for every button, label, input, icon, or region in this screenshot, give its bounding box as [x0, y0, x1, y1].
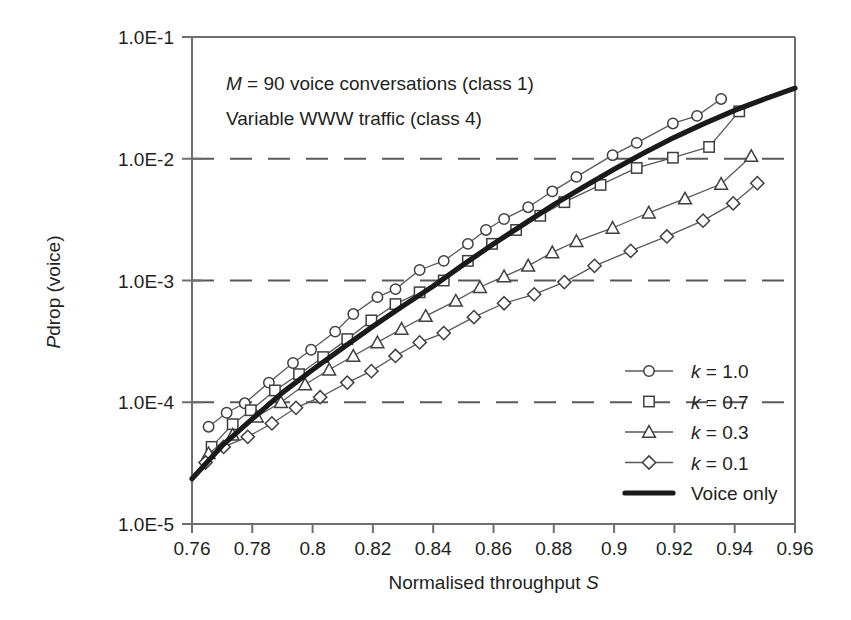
x-tick-label-0.82: 0.82 — [354, 538, 391, 559]
data-point-circle-5 — [306, 345, 316, 355]
data-point-circle-4 — [288, 358, 298, 368]
x-tick-label-0.94: 0.94 — [716, 538, 753, 559]
data-point-circle-20 — [668, 118, 678, 128]
legend-label-value: = 0.7 — [701, 392, 749, 413]
legend-label: k = 0.7 — [691, 392, 749, 413]
x-axis-title: Normalised throughput S — [388, 572, 599, 593]
y-tick-label-1.0E-2: 1.0E-2 — [118, 149, 174, 170]
y-tick-label-1.0E-4: 1.0E-4 — [118, 392, 174, 413]
legend-label: k = 0.1 — [691, 453, 749, 474]
annotation-line-2: Variable WWW traffic (class 4) — [226, 108, 482, 129]
legend-label: Voice only — [691, 483, 778, 504]
data-point-circle-15 — [523, 202, 533, 212]
annotation-symbol: M — [226, 73, 242, 94]
legend-label: k = 1.0 — [691, 361, 749, 382]
x-tick-label-0.9: 0.9 — [601, 538, 627, 559]
data-point-circle-22 — [716, 94, 726, 104]
legend-label-value: = 0.1 — [701, 453, 749, 474]
x-tick-label-0.78: 0.78 — [234, 538, 271, 559]
x-tick-label-0.96: 0.96 — [777, 538, 814, 559]
data-point-circle-6 — [330, 326, 340, 336]
data-point-circle-12 — [463, 239, 473, 249]
data-point-square-18 — [668, 153, 678, 163]
data-point-circle-1 — [221, 408, 231, 418]
x-tick-label-0.88: 0.88 — [535, 538, 572, 559]
pdrop-vs-throughput-chart: 0.760.780.80.820.840.860.880.90.920.940.… — [0, 0, 851, 620]
x-tick-label-0.92: 0.92 — [656, 538, 693, 559]
legend-label-value: = 1.0 — [701, 361, 749, 382]
y-tick-label-1.0E-3: 1.0E-3 — [118, 271, 174, 292]
legend-marker-square-icon — [644, 396, 654, 406]
data-point-square-17 — [632, 163, 642, 173]
data-point-circle-10 — [414, 265, 424, 275]
x-tick-label-0.86: 0.86 — [475, 538, 512, 559]
y-axis-title-text: drop (voice) — [43, 235, 64, 335]
x-tick-label-0.76: 0.76 — [174, 538, 211, 559]
data-point-circle-18 — [607, 150, 617, 160]
legend-label: k = 0.3 — [691, 422, 749, 443]
data-point-circle-9 — [390, 284, 400, 294]
y-axis-title-symbol: P — [43, 336, 64, 349]
data-point-circle-7 — [348, 309, 358, 319]
y-tick-label-1.0E-1: 1.0E-1 — [118, 27, 174, 48]
legend-marker-circle-icon — [644, 366, 654, 376]
data-point-circle-19 — [632, 138, 642, 148]
y-tick-label-1.0E-5: 1.0E-5 — [118, 514, 174, 535]
data-point-circle-11 — [439, 256, 449, 266]
data-point-circle-21 — [692, 111, 702, 121]
data-point-circle-8 — [372, 292, 382, 302]
x-tick-label-0.84: 0.84 — [415, 538, 452, 559]
x-tick-label-0.8: 0.8 — [299, 538, 325, 559]
legend-label-value: = 0.3 — [701, 422, 749, 443]
data-point-circle-13 — [481, 225, 491, 235]
annotation-line-1: M = 90 voice conversations (class 1) — [226, 73, 534, 94]
data-point-circle-16 — [547, 186, 557, 196]
x-axis-title-text: Normalised throughput — [388, 572, 586, 593]
data-point-square-19 — [704, 142, 714, 152]
data-point-circle-14 — [499, 214, 509, 224]
data-point-circle-0 — [203, 421, 213, 431]
annotation-text: = 90 voice conversations (class 1) — [242, 73, 534, 94]
x-axis-title-symbol: S — [586, 572, 599, 593]
data-point-circle-17 — [571, 172, 581, 182]
chart-figure: 0.760.780.80.820.840.860.880.90.920.940.… — [0, 0, 851, 620]
y-axis-title: Pdrop (voice) — [43, 235, 64, 348]
